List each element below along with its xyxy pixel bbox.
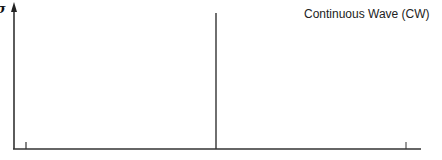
y-axis-arrow-icon <box>11 2 17 12</box>
cw-spectrum-diagram <box>0 0 442 160</box>
